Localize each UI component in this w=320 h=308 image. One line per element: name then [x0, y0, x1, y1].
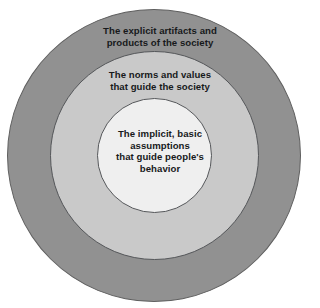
inner-circle-basic-assumptions [97, 98, 212, 213]
culture-onion-diagram: The explicit artifacts and products of t… [0, 0, 320, 308]
